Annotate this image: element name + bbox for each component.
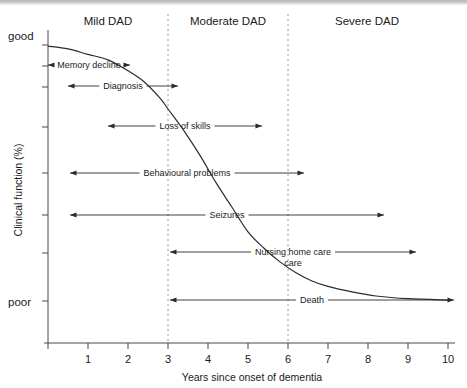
x-axis-tick-label-7: 7 xyxy=(325,353,331,365)
arrowhead-left xyxy=(70,170,77,175)
x-axis-tick-label-1: 1 xyxy=(85,353,91,365)
figure-container: Mild DAD Moderate DAD Severe DAD xyxy=(0,0,467,388)
event-annotations: Memory declineDiagnosisLoss of skillsBeh… xyxy=(48,60,454,305)
arrowhead-right xyxy=(172,83,179,88)
y-axis-label-good: good xyxy=(8,30,34,42)
x-axis-tick-label-5: 5 xyxy=(245,353,251,365)
x-axis-tick-label-9: 9 xyxy=(405,353,411,365)
annotation-label: Loss of skills xyxy=(159,121,211,131)
arrowhead-left xyxy=(48,62,55,67)
annotation-label: Memory decline xyxy=(57,60,121,70)
arrowhead-right xyxy=(378,212,385,217)
annotation-label: Diagnosis xyxy=(103,81,143,91)
stage-label-mild: Mild DAD xyxy=(84,15,133,27)
arrowhead-left xyxy=(68,83,75,88)
axes xyxy=(42,30,455,349)
annotation-label-line2: care xyxy=(284,258,302,268)
annotation-row: Diagnosis xyxy=(68,81,178,91)
arrowhead-left xyxy=(108,123,115,128)
x-axis-tick-label-4: 4 xyxy=(205,353,211,365)
annotation-row: Seizures xyxy=(70,210,384,220)
arrowhead-right xyxy=(448,297,455,302)
stage-dividers xyxy=(168,14,288,343)
x-axis-tick-label-3: 3 xyxy=(165,353,171,365)
arrowhead-right xyxy=(124,62,131,67)
annotation-row: Death xyxy=(170,295,454,305)
annotation-label: Nursing home care xyxy=(255,247,331,257)
annotation-row: Memory decline xyxy=(48,60,130,70)
x-axis-tick-label-6: 6 xyxy=(285,353,291,365)
arrowhead-right xyxy=(410,249,417,254)
annotation-row: Behavioural problems xyxy=(70,168,304,178)
annotation-label: Seizures xyxy=(209,210,245,220)
x-axis-tick-label-2: 2 xyxy=(125,353,131,365)
x-axis-tick-label-10: 10 xyxy=(442,353,454,365)
arrowhead-left xyxy=(170,297,177,302)
annotation-label: Behavioural problems xyxy=(143,168,231,178)
arrowhead-left xyxy=(70,212,77,217)
arrowhead-right xyxy=(256,123,263,128)
annotation-label: Death xyxy=(300,295,324,305)
annotation-row: Nursing home carecare xyxy=(170,247,416,268)
annotation-row: Loss of skills xyxy=(108,121,262,131)
stage-label-severe: Severe DAD xyxy=(335,15,399,27)
arrowhead-right xyxy=(298,170,305,175)
x-axis-tick-labels: 1 2 3 4 5 6 7 8 9 10 xyxy=(85,353,454,365)
y-axis-title: Clinical function (%) xyxy=(12,144,24,237)
y-axis-label-poor: poor xyxy=(8,296,31,308)
x-axis-tick-label-8: 8 xyxy=(365,353,371,365)
stage-band-labels: Mild DAD Moderate DAD Severe DAD xyxy=(84,15,399,27)
stage-label-moderate: Moderate DAD xyxy=(190,15,266,27)
x-axis-title: Years since onset of dementia xyxy=(182,371,322,383)
clinical-function-chart: Mild DAD Moderate DAD Severe DAD xyxy=(0,0,467,388)
arrowhead-left xyxy=(170,249,177,254)
